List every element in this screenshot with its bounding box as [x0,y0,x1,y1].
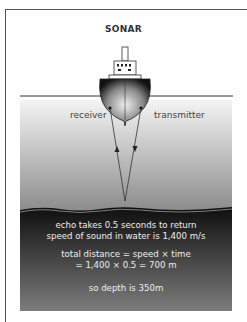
ship-funnel [122,47,128,61]
cabin-window [121,64,123,67]
diagram-title: SONAR [0,24,247,34]
explanation-line-4: = 1,400 × 0.5 = 700 m [20,260,232,271]
explanation-line-5: so depth is 350m [20,283,232,294]
receiver-label: receiver [70,110,107,120]
cabin-window [118,69,121,71]
cabin-window [125,64,127,67]
cabin-window [117,64,119,67]
ship-cabin [114,61,136,75]
cabin-window [128,69,131,71]
cabin-window [129,64,131,67]
explanation-line-3: total distance = speed × time [20,249,232,260]
sonar-diagram [0,0,247,322]
transmitter-label: transmitter [154,110,205,120]
explanation-line-1: echo takes 0.5 seconds to return [20,220,232,231]
ship-deck [109,75,141,79]
explanation-line-2: speed of sound in water is 1,400 m/s [20,231,232,242]
